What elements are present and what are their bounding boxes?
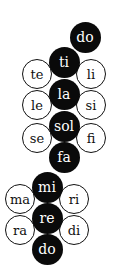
syllable-node-te: te xyxy=(22,59,52,89)
syllable-node-se: se xyxy=(22,123,52,153)
syllable-node-do-bottom: do xyxy=(32,234,63,265)
syllable-node-ra: ra xyxy=(5,215,35,245)
syllable-node-li: li xyxy=(76,59,106,89)
syllable-node-ri: ri xyxy=(59,184,89,214)
syllable-node-le: le xyxy=(22,90,52,120)
syllable-node-la: la xyxy=(49,79,80,110)
syllable-node-si: si xyxy=(76,90,106,120)
syllable-node-fi: fi xyxy=(76,123,106,153)
syllable-node-sol: sol xyxy=(49,111,80,142)
syllable-node-di: di xyxy=(59,215,89,245)
syllable-node-fa: fa xyxy=(49,142,80,173)
syllable-node-ma: ma xyxy=(5,184,35,214)
syllable-node-ti: ti xyxy=(49,47,80,78)
syllable-node-mi: mi xyxy=(32,172,63,203)
syllable-node-do-top: do xyxy=(70,22,101,53)
syllable-node-re: re xyxy=(32,203,63,234)
